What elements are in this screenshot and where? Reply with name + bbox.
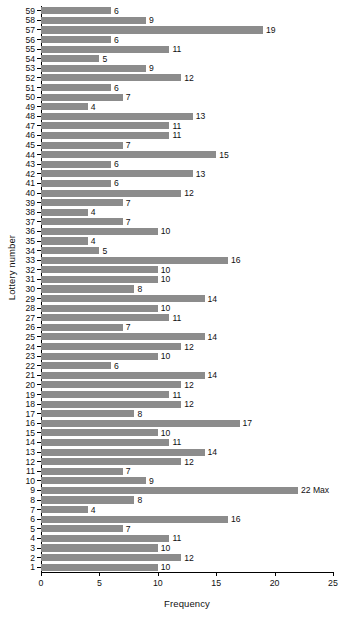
bar [41,199,123,206]
bar [41,103,88,110]
y-axis-tick-label: 37 [25,218,35,227]
bar-value-label: 11 [169,313,181,322]
bar [41,506,88,513]
bar-value-label: 8 [134,496,142,505]
bar [41,516,228,523]
bar [41,276,158,283]
bar-value-label: 7 [123,323,131,332]
bar [41,420,240,427]
y-axis-tick-label: 40 [25,189,35,198]
bar [41,122,169,129]
bar [41,477,146,484]
bar [41,401,181,408]
bar-value-label: 4 [88,505,96,514]
y-axis-tick-label: 35 [25,237,35,246]
bar-value-label: 17 [240,419,253,428]
bar-row: 545 [41,54,333,64]
bar [41,55,99,62]
bar [41,132,169,139]
bar-value-label: 16 [228,515,241,524]
bar-row: 2914 [41,294,333,304]
bar [41,324,123,331]
bar-row: 110 [41,562,333,572]
y-axis-tick-label: 59 [25,6,35,15]
bar-value-label: 14 [205,448,218,457]
y-axis-tick-label: 12 [25,457,35,466]
bar-row: 2412 [41,342,333,352]
y-axis-tick-label: 33 [25,256,35,265]
bar [41,564,158,571]
bar-value-label: 9 [146,477,154,486]
bar-row: 5719 [41,25,333,35]
y-axis-tick-label: 7 [30,505,35,514]
bar-value-label: 12 [181,457,194,466]
bar-row: 4213 [41,169,333,179]
bar-value-label: 7 [123,141,131,150]
y-axis-tick-label: 1 [30,563,35,572]
y-axis-tick-label: 25 [25,333,35,342]
bar-value-label: 22 Max [298,486,329,495]
bar [41,142,123,149]
x-axis-tick-label: 20 [270,579,280,588]
bar-row: 1212 [41,457,333,467]
y-axis-tick-label: 19 [25,390,35,399]
bar-value-label: 6 [111,6,119,15]
y-axis-tick-label: 17 [25,409,35,418]
y-axis-tick-label: 50 [25,93,35,102]
bar-value-label: 13 [193,112,206,121]
bar [41,65,146,72]
bar [41,247,99,254]
bar-value-label: 14 [205,294,218,303]
bar [41,458,181,465]
bar-value-label: 7 [123,467,131,476]
bar [41,180,111,187]
bar-value-label: 10 [158,275,171,284]
bar [41,449,205,456]
y-axis-tick-label: 46 [25,131,35,140]
bar [41,209,88,216]
bar-row: 1617 [41,419,333,429]
bar-value-label: 12 [181,400,194,409]
bar-row: 616 [41,514,333,524]
bar-value-label: 11 [169,438,181,447]
x-axis-tick [216,572,217,576]
bar [41,525,123,532]
y-axis-tick-label: 56 [25,35,35,44]
x-axis-tick [333,572,334,576]
bar-row: 596 [41,6,333,16]
y-axis-tick-label: 57 [25,26,35,35]
bar-row: 516 [41,83,333,93]
bar [41,190,181,197]
y-axis-tick-label: 54 [25,54,35,63]
bar-row: 3316 [41,255,333,265]
bar [41,381,181,388]
y-axis-tick-label: 36 [25,227,35,236]
y-axis-tick-label: 9 [30,486,35,495]
x-axis-line [41,572,333,573]
bar-row: 178 [41,409,333,419]
x-axis-tick-label: 10 [153,579,163,588]
bar-row: 436 [41,159,333,169]
x-axis-title: Frequency [41,598,333,609]
y-axis-tick-label: 34 [25,246,35,255]
bar [41,487,298,494]
bar-row: 494 [41,102,333,112]
bar-value-label: 11 [169,45,181,54]
bar [41,544,158,551]
bar-value-label: 4 [88,237,96,246]
y-axis-tick-label: 6 [30,515,35,524]
bar [41,343,181,350]
bar [41,429,158,436]
bar [41,314,169,321]
bar-row: 2711 [41,313,333,323]
y-axis-tick-label: 22 [25,361,35,370]
y-axis-tick-label: 20 [25,381,35,390]
y-axis-tick-label: 45 [25,141,35,150]
bar-value-label: 12 [181,189,194,198]
bar-row: 2310 [41,351,333,361]
y-axis-tick-label: 14 [25,438,35,447]
bar-value-label: 10 [158,352,171,361]
bar-value-label: 4 [88,208,96,217]
bar-row: 226 [41,361,333,371]
bar-value-label: 6 [111,35,119,44]
